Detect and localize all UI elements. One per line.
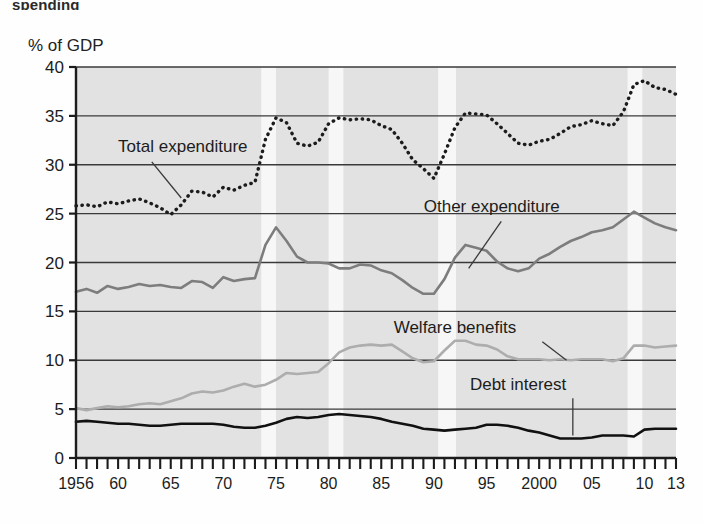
x-tick-label-85: 85 [372,475,390,492]
x-tick-label-60: 60 [109,475,127,492]
y-axis-tick-labels-group: 0510152025303540 [45,58,64,468]
x-tick-label-05: 05 [583,475,601,492]
x-axis-tick-labels-group: 195660657075808590952000051013 [58,475,685,492]
y-tick-label-10: 10 [45,351,64,370]
y-tick-label-0: 0 [55,449,64,468]
series-label-debt-interest: Debt interest [470,375,567,394]
y-tick-label-25: 25 [45,205,64,224]
x-tick-label-13: 13 [667,475,685,492]
x-axis-ticks-group [76,458,676,469]
chart-canvas: 0510152025303540 19566065707580859095200… [0,0,703,524]
x-tick-label-2000: 2000 [521,475,557,492]
series-label-welfare-benefits: Welfare benefits [394,318,517,337]
x-tick-label-70: 70 [214,475,232,492]
y-tick-label-40: 40 [45,58,64,77]
x-tick-label-90: 90 [425,475,443,492]
plot-area: 0510152025303540 19566065707580859095200… [0,0,703,524]
x-tick-label-10: 10 [636,475,654,492]
x-tick-label-95: 95 [478,475,496,492]
x-tick-label-80: 80 [320,475,338,492]
y-tick-label-15: 15 [45,302,64,321]
y-tick-label-35: 35 [45,107,64,126]
series-label-other-expenditure: Other expenditure [424,197,560,216]
x-tick-label-1956: 1956 [58,475,94,492]
x-tick-label-65: 65 [162,475,180,492]
y-tick-label-30: 30 [45,156,64,175]
y-tick-label-5: 5 [55,400,64,419]
y-tick-label-20: 20 [45,254,64,273]
chart-figure: spending % of GDP 0510152025303540 19566… [0,0,703,524]
x-tick-label-75: 75 [267,475,285,492]
series-label-total-expenditure: Total expenditure [118,137,247,156]
